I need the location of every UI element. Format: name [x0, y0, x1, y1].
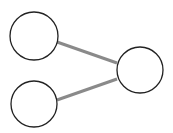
- node-right: [117, 47, 163, 93]
- edge-bottom-left-to-right: [57, 79, 117, 100]
- edge-top-left-to-right: [57, 42, 117, 63]
- node-top-left: [10, 12, 58, 60]
- graph-diagram: [0, 0, 173, 133]
- node-bottom-left: [11, 81, 57, 127]
